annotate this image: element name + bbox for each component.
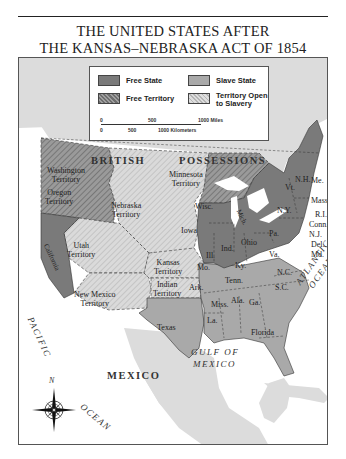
legend-swatch-slave-state — [188, 75, 210, 86]
label-vt: Vt. — [285, 183, 295, 192]
label-mexico: MEXICO — [107, 371, 160, 380]
label-tenn: Tenn. — [225, 276, 243, 285]
label-ala: Ala. — [231, 296, 245, 305]
legend-label-slave-state: Slave State — [216, 77, 256, 85]
scale-miles-0: 0 — [100, 117, 103, 123]
label-oregon-territory: OregonTerritory — [45, 188, 73, 206]
label-ark: Ark. — [189, 283, 203, 292]
map-title-line1: THE UNITED STATES AFTER — [0, 23, 346, 40]
label-ohio: Ohio — [241, 238, 257, 247]
legend-label-free-state: Free State — [126, 77, 162, 85]
label-indian-territory: IndianTerritory — [153, 280, 181, 298]
label-gulf-of: GULF OF — [191, 348, 239, 357]
label-washington-territory: WashingtonTerritory — [47, 166, 85, 184]
label-gulf-mexico: MEXICO — [193, 360, 236, 369]
label-british: BRITISH — [91, 156, 145, 165]
label-minnesota-territory: MinnesotaTerritory — [169, 170, 203, 188]
label-mo: Mo. — [197, 263, 210, 272]
label-ind: Ind. — [221, 244, 234, 253]
map-legend: Free State Slave State Free Territory Te… — [89, 66, 269, 141]
title-rule — [18, 16, 328, 17]
scale-km-500: 500 — [128, 127, 136, 133]
scale-miles-500: 500 — [148, 117, 156, 123]
label-sc: S.C. — [275, 283, 289, 292]
label-iowa: Iowa — [181, 226, 197, 235]
label-la: La. — [207, 316, 217, 325]
scale-bar — [101, 124, 201, 125]
label-florida: Florida — [251, 328, 274, 337]
label-mass: Mass. — [311, 196, 328, 205]
label-va: Va. — [269, 250, 279, 259]
compass-north-label: N — [49, 376, 56, 385]
legend-label-free-territory: Free Territory — [126, 95, 174, 103]
label-possessions: POSSESSIONS — [179, 156, 266, 165]
label-utah-territory: UtahTerritory — [67, 241, 95, 259]
label-nc: N.C. — [277, 268, 292, 277]
label-ky: Ky. — [235, 261, 246, 270]
label-wisc: Wisc. — [195, 202, 213, 211]
label-nh: N.H. — [295, 175, 311, 184]
label-pa: Pa. — [269, 229, 279, 238]
label-nebraska-territory: NebraskaTerritory — [111, 201, 141, 219]
legend-swatch-free-state — [98, 75, 120, 86]
scale-km-0: 0 — [100, 127, 103, 133]
scale-miles-1000: 1000 Miles — [198, 117, 223, 123]
label-nj: N.J. — [309, 230, 322, 239]
label-me: Me. — [311, 176, 324, 185]
map-title-line2: THE KANSAS–NEBRASKA ACT OF 1854 — [0, 40, 346, 57]
map-frame: Free State Slave State Free Territory Te… — [18, 57, 328, 445]
label-ny: N.Y. — [277, 206, 292, 215]
label-texas: Texas — [157, 323, 176, 332]
legend-swatch-free-territory — [98, 93, 120, 104]
label-new-mexico-territory: New MexicoTerritory — [74, 290, 116, 308]
legend-swatch-open-territory — [188, 93, 210, 104]
label-ri: R.I. — [315, 210, 327, 219]
label-conn: Conn. — [309, 220, 328, 229]
legend-label-open-territory-line2: to Slavery — [216, 100, 252, 108]
compass-rose — [32, 388, 76, 432]
label-miss: Miss. — [211, 300, 229, 309]
label-kansas-territory: KansasTerritory — [154, 258, 182, 276]
label-ill: Ill. — [206, 251, 215, 260]
label-ga: Ga. — [249, 298, 260, 307]
scale-km-1000: 1000 Kilometers — [158, 127, 196, 133]
